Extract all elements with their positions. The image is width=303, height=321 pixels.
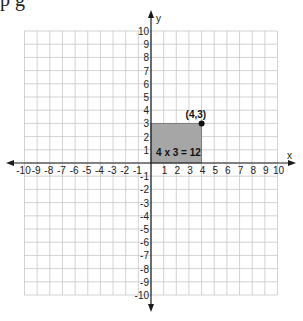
point-label: (4,3) <box>186 109 207 120</box>
svg-text:-1: -1 <box>140 171 149 182</box>
svg-text:-6: -6 <box>140 237 149 248</box>
svg-text:-7: -7 <box>57 165 66 176</box>
svg-text:1: 1 <box>162 165 168 176</box>
svg-text:9: 9 <box>143 39 149 50</box>
svg-text:6: 6 <box>225 165 231 176</box>
svg-text:-9: -9 <box>140 277 149 288</box>
svg-text:-5: -5 <box>82 165 91 176</box>
svg-text:4: 4 <box>143 105 149 116</box>
svg-text:10: 10 <box>138 26 150 37</box>
svg-text:-8: -8 <box>140 264 149 275</box>
coordinate-plane: -10-9-8-7-6-5-4-3-2-11234567891012345678… <box>0 0 303 321</box>
svg-text:3: 3 <box>143 118 149 129</box>
svg-text:-10: -10 <box>16 165 31 176</box>
svg-text:10: 10 <box>273 165 285 176</box>
svg-text:8: 8 <box>143 52 149 63</box>
point-marker <box>199 120 205 126</box>
svg-text:8: 8 <box>250 165 256 176</box>
svg-text:-5: -5 <box>140 224 149 235</box>
svg-text:-4: -4 <box>140 211 149 222</box>
svg-text:-4: -4 <box>95 165 104 176</box>
x-axis-label: x <box>287 150 292 161</box>
svg-text:-2: -2 <box>120 165 129 176</box>
svg-text:-7: -7 <box>140 250 149 261</box>
svg-text:-2: -2 <box>140 184 149 195</box>
svg-text:5: 5 <box>212 165 218 176</box>
y-axis-label: y <box>156 13 161 24</box>
svg-text:5: 5 <box>143 92 149 103</box>
svg-text:4: 4 <box>200 165 206 176</box>
svg-text:-3: -3 <box>108 165 117 176</box>
svg-text:2: 2 <box>143 132 149 143</box>
svg-text:9: 9 <box>263 165 269 176</box>
svg-text:-6: -6 <box>70 165 79 176</box>
svg-text:7: 7 <box>238 165 244 176</box>
svg-text:-3: -3 <box>140 198 149 209</box>
svg-text:3: 3 <box>187 165 193 176</box>
svg-text:-10: -10 <box>135 290 150 301</box>
svg-text:-8: -8 <box>44 165 53 176</box>
svg-text:7: 7 <box>143 66 149 77</box>
svg-text:-9: -9 <box>32 165 41 176</box>
svg-text:1: 1 <box>143 145 149 156</box>
area-label: 4 x 3 = 12 <box>156 147 201 158</box>
svg-text:2: 2 <box>175 165 181 176</box>
svg-text:6: 6 <box>143 79 149 90</box>
